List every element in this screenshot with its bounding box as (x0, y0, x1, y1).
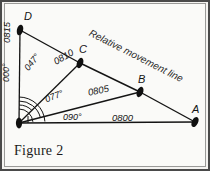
vessel-mark-d (16, 24, 25, 36)
vessel-mark-c (75, 57, 85, 69)
angle-label-090: 090° (63, 113, 82, 122)
figure-caption: Figure 2 (14, 143, 63, 159)
vessel-label-d: D (24, 11, 32, 22)
vessel-mark-b (135, 86, 145, 98)
figure-container: D C B A 0815 0810 0805 0800 000° 047° 07… (0, 0, 210, 171)
vessel-mark-own-ship (16, 118, 22, 129)
angle-label-000: 000° (2, 63, 11, 82)
vessel-label-a: A (192, 104, 199, 115)
vessel-label-b: B (138, 74, 145, 85)
bearing-line-090 (19, 122, 195, 123)
time-label-0800: 0800 (112, 113, 133, 123)
time-label-0815: 0815 (2, 22, 12, 43)
rml-segment-ba (140, 92, 195, 122)
vessel-label-c: C (79, 44, 87, 55)
